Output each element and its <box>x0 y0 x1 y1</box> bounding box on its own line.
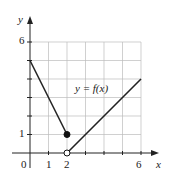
x-axis-label: x <box>155 158 161 170</box>
grid <box>30 42 141 153</box>
y-tick-label-1: 1 <box>19 127 25 139</box>
function-label: y = f(x) <box>74 82 108 95</box>
y-axis-label: y <box>17 13 23 25</box>
x-tick-label-2: 2 <box>64 158 70 170</box>
open-dot-icon <box>64 150 70 156</box>
y-tick-label-6: 6 <box>19 34 25 46</box>
x-tick-label-1: 1 <box>46 158 52 170</box>
x-axis-arrow-icon <box>151 150 159 156</box>
origin-label: 0 <box>21 158 27 170</box>
function-graph: y x 0 1 2 6 1 6 y = f(x) <box>0 0 171 179</box>
y-axis-arrow-icon <box>27 16 33 24</box>
ticks <box>27 42 141 155</box>
x-tick-label-6: 6 <box>136 158 142 170</box>
closed-dot-icon <box>64 132 70 138</box>
